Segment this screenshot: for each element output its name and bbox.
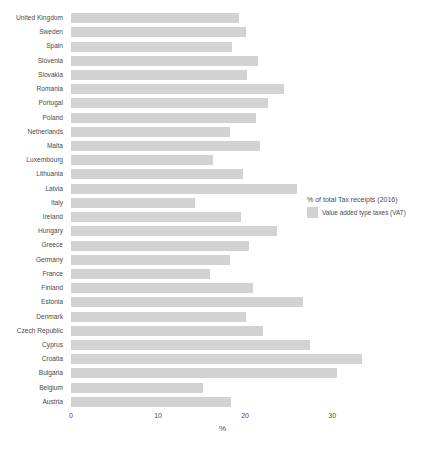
bar — [71, 70, 247, 80]
bar — [71, 241, 249, 251]
y-axis-tick-label: Greece — [41, 238, 63, 252]
y-axis-tick-label: United Kingdom — [16, 11, 63, 25]
bar — [71, 397, 231, 407]
bar — [71, 340, 310, 350]
bar — [71, 98, 268, 108]
bar — [71, 383, 203, 393]
legend-title: % of total Tax receipts (2016) — [307, 196, 435, 203]
y-axis-tick-label: Spain — [46, 39, 63, 53]
y-axis-tick-label: Luxembourg — [26, 153, 63, 167]
x-axis-tick-labels: 0102030 — [0, 409, 438, 423]
bar — [71, 326, 263, 336]
bar — [71, 13, 239, 23]
y-axis-tick-label: Slovenia — [38, 54, 63, 68]
bar — [71, 27, 246, 37]
y-axis-tick-label: Italy — [51, 196, 63, 210]
y-axis-tick-label: Denmark — [36, 310, 63, 324]
bar — [71, 141, 260, 151]
y-axis-tick-label: Ireland — [43, 210, 63, 224]
legend-item-label: Value added type taxes (VAT) — [322, 209, 406, 216]
y-axis-tick-label: Czech Republic — [17, 324, 63, 338]
bar — [71, 127, 230, 137]
bar — [71, 354, 362, 364]
y-axis-tick-label: France — [42, 267, 63, 281]
bar — [71, 212, 241, 222]
x-axis-tick-label: 0 — [69, 412, 73, 419]
x-axis-title: % — [71, 424, 374, 433]
y-axis-tick-label: Austria — [42, 395, 63, 409]
bar — [71, 169, 243, 179]
bar — [71, 297, 303, 307]
bar — [71, 312, 246, 322]
y-axis-tick-labels: United KingdomSwedenSpainSloveniaSlovaki… — [0, 11, 67, 409]
y-axis-tick-label: Malta — [47, 139, 63, 153]
y-axis-tick-label: Romania — [37, 82, 63, 96]
legend-color-swatch-icon — [307, 207, 318, 218]
bar — [71, 155, 213, 165]
y-axis-tick-label: Finland — [41, 281, 63, 295]
y-axis-tick-label: Netherlands — [27, 125, 63, 139]
y-axis-tick-label: Latvia — [45, 182, 63, 196]
y-axis-tick-label: Sweden — [39, 25, 63, 39]
y-axis-tick-label: Croatia — [42, 352, 63, 366]
y-axis-tick-label: Portugal — [38, 96, 63, 110]
legend-item-vat: Value added type taxes (VAT) — [307, 207, 435, 218]
bar — [71, 184, 297, 194]
x-axis-tick-label: 20 — [241, 412, 249, 419]
legend: % of total Tax receipts (2016) Value add… — [307, 196, 435, 218]
bar — [71, 84, 284, 94]
bar — [71, 269, 210, 279]
bar — [71, 42, 232, 52]
bar — [71, 283, 253, 293]
bar — [71, 198, 195, 208]
y-axis-tick-label: Belgium — [39, 381, 63, 395]
x-axis-tick-label: 10 — [154, 412, 162, 419]
y-axis-tick-label: Germany — [36, 253, 63, 267]
y-axis-tick-label: Hungary — [38, 224, 63, 238]
y-axis-tick-label: Lithuania — [36, 167, 63, 181]
bar — [71, 56, 258, 66]
y-axis-tick-label: Slovakia — [38, 68, 63, 82]
bar — [71, 226, 277, 236]
bar — [71, 255, 230, 265]
x-axis-tick-label: 30 — [328, 412, 336, 419]
bar-chart: Country United KingdomSwedenSpainSloveni… — [0, 0, 438, 449]
y-axis-tick-label: Bulgaria — [39, 366, 63, 380]
y-axis-tick-label: Cyprus — [42, 338, 63, 352]
bar — [71, 113, 256, 123]
y-axis-tick-label: Estonia — [41, 295, 63, 309]
bar — [71, 368, 337, 378]
y-axis-tick-label: Poland — [42, 111, 63, 125]
